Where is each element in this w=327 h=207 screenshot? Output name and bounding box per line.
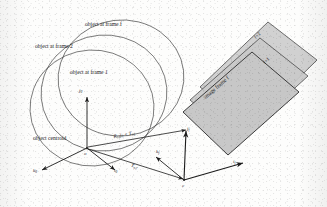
object-origin-dot xyxy=(86,147,88,149)
axis-kf-sub: f xyxy=(158,151,159,155)
axis-kf-line xyxy=(156,157,184,180)
camera-origin-dot xyxy=(183,179,185,181)
figure-svg xyxy=(0,0,327,207)
label-object-centroid: object centroid xyxy=(33,136,66,142)
axis-if-sub: f xyxy=(234,161,235,165)
label-axis-k0: k0 xyxy=(33,168,37,174)
axis-jf-line xyxy=(184,131,186,180)
label-axis-i0: i0 xyxy=(114,168,117,174)
figure-canvas: object at frame f object at frame 2 obje… xyxy=(0,0,327,207)
label-axis-j0: j0 xyxy=(79,88,82,94)
label-axis-jf: jf xyxy=(187,126,189,132)
object-outline-frame-1 xyxy=(27,47,157,169)
label-camera-origin: c xyxy=(182,183,184,188)
expr-T-sub: o,f xyxy=(131,132,135,137)
axis-k0-line xyxy=(42,148,87,170)
axis-k0-sub: 0 xyxy=(35,170,37,174)
label-object-origin: o xyxy=(84,151,87,156)
axis-j0-sub: 0 xyxy=(80,90,82,94)
object-outline-frame-f xyxy=(51,13,190,143)
axis-if-line xyxy=(184,163,243,180)
label-object-at-frame-2: object at frame 2 xyxy=(35,44,73,50)
axis-jf-sub: f xyxy=(188,128,189,132)
label-object-at-frame-1: object at frame 1 xyxy=(70,70,108,76)
label-axis-if: if xyxy=(233,159,235,165)
vector-rotation-translation-line xyxy=(88,130,186,147)
label-object-at-frame-f: object at frame f xyxy=(85,22,122,28)
label-axis-kf: kf xyxy=(156,149,159,155)
axis-i0-sub: 0 xyxy=(115,170,117,174)
